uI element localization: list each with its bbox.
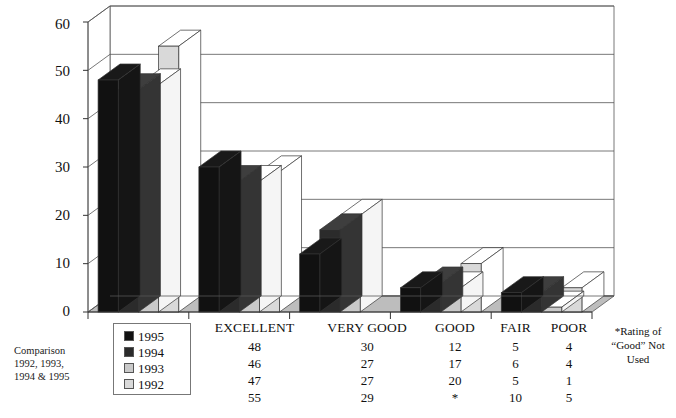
data-table: EXCELLENT VERY GOOD GOOD FAIR POOR 48 30… — [196, 320, 596, 406]
y-axis-tick-10: 10 — [42, 256, 70, 271]
y-axis-tick-60: 60 — [42, 17, 70, 32]
legend-item-1992[interactable]: 1992 — [124, 376, 190, 392]
y-axis-tick-30: 30 — [42, 160, 70, 175]
cell-1994-excellent: 46 — [196, 355, 313, 372]
table-row: 46 27 17 6 4 — [196, 355, 596, 372]
cell-1992-excellent: 55 — [196, 389, 313, 406]
legend-swatch-1994 — [124, 347, 134, 357]
cell-1993-poor: 1 — [542, 372, 596, 389]
table-header-row: EXCELLENT VERY GOOD GOOD FAIR POOR — [196, 320, 596, 338]
legend-swatch-1993 — [124, 363, 134, 373]
column-header-very-good: VERY GOOD — [313, 320, 421, 338]
chart-footnote: *Rating of “Good” Not Used — [601, 324, 675, 366]
cell-1992-good: * — [421, 389, 489, 406]
cell-1995-poor: 4 — [542, 338, 596, 355]
cell-1992-very-good: 29 — [313, 389, 421, 406]
footnote-line-1: *Rating of — [601, 324, 675, 338]
legend-swatch-1995 — [124, 331, 134, 341]
bar-1995-very-good[interactable] — [199, 151, 241, 312]
cell-1994-poor: 4 — [542, 355, 596, 372]
column-header-poor: POOR — [542, 320, 596, 338]
bar-1995-good[interactable] — [300, 238, 342, 312]
caption-line-2: 1992, 1993, — [14, 357, 106, 370]
footnote-line-3: Used — [601, 352, 675, 366]
cell-1993-fair: 5 — [489, 372, 542, 389]
bar-chart-svg — [0, 0, 676, 320]
y-axis-tick-0: 0 — [42, 304, 70, 319]
cell-1993-good: 20 — [421, 372, 489, 389]
cell-1995-very-good: 30 — [313, 338, 421, 355]
caption-line-3: 1994 & 1995 — [14, 370, 106, 383]
table-row: 47 27 20 5 1 — [196, 372, 596, 389]
chart-plot-area: 60 50 40 30 20 10 0 — [0, 0, 676, 320]
chart-legend: 1995 1994 1993 1992 — [113, 323, 191, 395]
cell-1994-fair: 6 — [489, 355, 542, 372]
cell-1995-good: 12 — [421, 338, 489, 355]
legend-item-1995[interactable]: 1995 — [124, 328, 190, 344]
legend-label-1993: 1993 — [138, 362, 164, 375]
cell-1994-good: 17 — [421, 355, 489, 372]
y-axis-tick-20: 20 — [42, 208, 70, 223]
chart-caption: Comparison 1992, 1993, 1994 & 1995 — [14, 344, 106, 383]
legend-label-1995: 1995 — [138, 330, 164, 343]
legend-item-1993[interactable]: 1993 — [124, 360, 190, 376]
cell-1995-fair: 5 — [489, 338, 542, 355]
legend-swatch-1992 — [124, 379, 134, 389]
legend-label-1994: 1994 — [138, 346, 164, 359]
legend-item-1994[interactable]: 1994 — [124, 344, 190, 360]
column-header-fair: FAIR — [489, 320, 542, 338]
footnote-line-2: “Good” Not — [601, 338, 675, 352]
bar-1995-excellent[interactable] — [98, 64, 140, 312]
cell-1992-poor: 5 — [542, 389, 596, 406]
table-row: 55 29 * 10 5 — [196, 389, 596, 406]
column-header-excellent: EXCELLENT — [196, 320, 313, 338]
y-axis-tick-40: 40 — [42, 112, 70, 127]
cell-1994-very-good: 27 — [313, 355, 421, 372]
cell-1993-excellent: 47 — [196, 372, 313, 389]
legend-label-1992: 1992 — [138, 378, 164, 391]
cell-1995-excellent: 48 — [196, 338, 313, 355]
cell-1993-very-good: 27 — [313, 372, 421, 389]
caption-line-1: Comparison — [14, 344, 106, 357]
chart-bottom-section: Comparison 1992, 1993, 1994 & 1995 1995 … — [0, 318, 676, 418]
table-row: 48 30 12 5 4 — [196, 338, 596, 355]
y-axis-tick-50: 50 — [42, 64, 70, 79]
cell-1992-fair: 10 — [489, 389, 542, 406]
column-header-good: GOOD — [421, 320, 489, 338]
